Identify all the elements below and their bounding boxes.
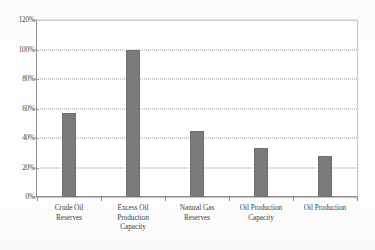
y-axis-tick-label: 120% (0, 16, 35, 24)
bar-slot (37, 20, 101, 197)
bar-slot (165, 20, 229, 197)
x-axis-tick-mark (165, 197, 166, 201)
category-label-line: Excess Oil (101, 203, 165, 213)
bar[interactable] (62, 113, 76, 197)
y-axis-tick-label: 0% (0, 193, 35, 201)
bar[interactable] (318, 156, 332, 197)
category-label: Oil ProductionCapacity (229, 203, 293, 222)
y-axis-tick-label: 20% (0, 164, 35, 172)
category-label-line: Production (101, 213, 165, 223)
x-axis-tick-mark (357, 197, 358, 201)
y-axis-tick-label: 100% (0, 46, 35, 54)
category-label-line: Reserves (165, 213, 229, 223)
bar[interactable] (126, 50, 140, 198)
category-label: Natural GasReserves (165, 203, 229, 222)
y-axis-tick-label: 40% (0, 134, 35, 142)
category-label-line: Capacity (101, 222, 165, 232)
y-axis-tick-label: 60% (0, 105, 35, 113)
x-axis-tick-mark (101, 197, 102, 201)
category-label: Crude OilReserves (37, 203, 101, 222)
bar[interactable] (254, 148, 268, 197)
category-label-line: Oil Production (229, 203, 293, 213)
bar-slot (229, 20, 293, 197)
x-axis-tick-mark (229, 197, 230, 201)
category-label-line: Capacity (229, 213, 293, 223)
bars-layer (37, 20, 357, 197)
category-label: Oil Production (293, 203, 357, 213)
x-axis-tick-mark (293, 197, 294, 201)
bar[interactable] (190, 131, 204, 197)
bar-slot (293, 20, 357, 197)
category-label: Excess OilProductionCapacity (101, 203, 165, 232)
category-label-line: Oil Production (293, 203, 357, 213)
x-axis-tick-mark (37, 197, 38, 201)
y-axis-tick-label: 80% (0, 75, 35, 83)
category-label-line: Crude Oil (37, 203, 101, 213)
bar-chart-figure: 0%20%40%60%80%100%120% Crude OilReserves… (0, 0, 375, 250)
category-label-line: Reserves (37, 213, 101, 223)
x-axis-category-labels: Crude OilReservesExcess OilProductionCap… (37, 203, 357, 248)
category-label-line: Natural Gas (165, 203, 229, 213)
bar-slot (101, 20, 165, 197)
